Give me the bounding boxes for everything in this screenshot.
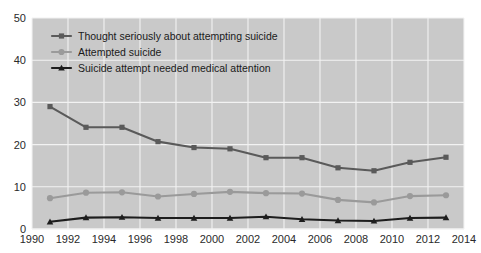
y-tick-label: 30 — [14, 96, 26, 108]
x-tick-label: 2002 — [236, 233, 260, 245]
data-point-marker — [443, 155, 448, 160]
data-point-marker — [47, 104, 52, 109]
x-tick-label: 2014 — [452, 233, 476, 245]
x-tick-label: 1998 — [164, 233, 188, 245]
x-tick-label: 2000 — [200, 233, 224, 245]
y-tick-label: 20 — [14, 139, 26, 151]
legend-item-label: Suicide attempt needed medical attention — [78, 62, 271, 74]
data-point-marker — [227, 189, 233, 195]
x-tick-label: 2008 — [344, 233, 368, 245]
x-tick-label: 1992 — [56, 233, 80, 245]
x-tick-label: 2006 — [308, 233, 332, 245]
legend-swatch-marker — [59, 33, 64, 38]
data-point-marker — [263, 190, 269, 196]
data-point-marker — [155, 139, 160, 144]
y-tick-label: 10 — [14, 181, 26, 193]
legend-item-1: Thought seriously about attempting suici… — [52, 30, 278, 42]
suicide-trends-line-chart: 50403020100 1990199219941996199820002002… — [0, 0, 481, 253]
data-point-marker — [119, 125, 124, 130]
data-point-marker — [299, 190, 305, 196]
data-point-marker — [155, 193, 161, 199]
data-point-marker — [335, 197, 341, 203]
data-point-marker — [83, 190, 89, 196]
chart-canvas: 50403020100 1990199219941996199820002002… — [0, 0, 481, 253]
x-tick-label: 1990 — [20, 233, 44, 245]
x-tick-label: 2004 — [272, 233, 296, 245]
data-point-marker — [191, 191, 197, 197]
y-tick-label: 50 — [14, 12, 26, 24]
data-point-marker — [371, 199, 377, 205]
data-point-marker — [371, 168, 376, 173]
data-point-marker — [407, 193, 413, 199]
legend-item-label: Thought seriously about attempting suici… — [78, 30, 278, 42]
legend-swatch-marker — [58, 49, 64, 55]
data-point-marker — [335, 165, 340, 170]
x-tick-label: 2012 — [416, 233, 440, 245]
data-point-marker — [407, 160, 412, 165]
x-tick-label: 1996 — [128, 233, 152, 245]
data-point-marker — [119, 189, 125, 195]
data-point-marker — [443, 192, 449, 198]
data-point-marker — [227, 146, 232, 151]
data-point-marker — [47, 195, 53, 201]
data-point-marker — [263, 155, 268, 160]
y-tick-label: 40 — [14, 54, 26, 66]
data-point-marker — [191, 145, 196, 150]
data-point-marker — [83, 125, 88, 130]
legend-item-label: Attempted suicide — [78, 46, 162, 58]
legend-item-3: Suicide attempt needed medical attention — [52, 62, 271, 74]
x-tick-label: 1994 — [92, 233, 116, 245]
data-point-marker — [299, 155, 304, 160]
x-tick-label: 2010 — [380, 233, 404, 245]
